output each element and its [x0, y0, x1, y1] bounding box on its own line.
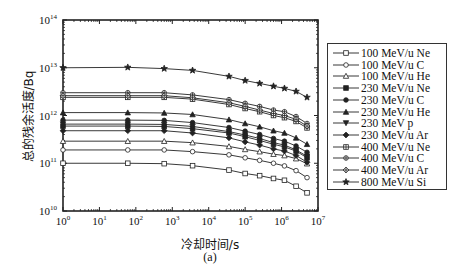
legend-item: 230 MeV/u He: [328, 106, 448, 118]
legend-label: 100 MeV/u Ne: [361, 47, 430, 59]
legend-item: 100 MeV/u Ne: [328, 47, 448, 59]
x-tick-label: 101: [92, 214, 107, 227]
legend-item: 400 MeV/u Ne: [328, 141, 448, 153]
legend-marker-icon: [332, 59, 360, 71]
legend-label: 100 MeV/u C: [361, 59, 424, 71]
legend-marker-icon: [332, 152, 360, 164]
legend-label: 400 MeV/u C: [361, 152, 424, 164]
legend-marker-icon: [332, 82, 360, 94]
legend-item: 100 MeV/u C: [328, 59, 448, 71]
series-100-mev-u-c: [61, 148, 310, 180]
y-axis-label: 总的残余活度/Bq: [19, 52, 36, 182]
legend-label: 800 MeV/u Si: [361, 176, 426, 188]
legend-marker-icon: [332, 164, 360, 176]
legend-label: 230 MeV/u C: [361, 94, 424, 106]
legend-label: 230 MeV/u Ar: [361, 129, 428, 141]
legend-marker-icon: [332, 117, 360, 129]
legend-item: 800 MeV/u Si: [328, 176, 448, 188]
figure-sublabel: (a): [160, 250, 260, 265]
legend-item: 230 MeV/u Ne: [328, 82, 448, 94]
legend: 100 MeV/u Ne100 MeV/u C100 MeV/u He230 M…: [327, 43, 447, 190]
y-tick-label: 1014: [39, 13, 58, 26]
y-tick-label: 1011: [39, 156, 57, 169]
legend-marker-icon: [332, 94, 360, 106]
series-100-mev-u-ne: [61, 161, 310, 195]
legend-label: 400 MeV/u Ar: [361, 164, 428, 176]
legend-marker-icon: [332, 70, 360, 82]
x-tick-label: 106: [274, 214, 289, 227]
y-tick-label: 1012: [39, 109, 58, 122]
legend-label: 230 MeV/u He: [361, 106, 430, 118]
y-tick-label: 1013: [39, 61, 58, 74]
legend-marker-icon: [332, 106, 360, 118]
x-tick-label: 103: [165, 214, 180, 227]
legend-marker-icon: [332, 47, 360, 59]
legend-label: 230 MeV p: [361, 117, 413, 129]
legend-marker-icon: [332, 176, 360, 188]
legend-label: 230 MeV/u Ne: [361, 82, 430, 94]
legend-label: 400 MeV/u Ne: [361, 141, 430, 153]
legend-marker-icon: [332, 129, 360, 141]
legend-item: 400 MeV/u Ar: [328, 164, 448, 176]
legend-item: 230 MeV/u Ar: [328, 129, 448, 141]
legend-label: 100 MeV/u He: [361, 70, 430, 82]
x-tick-label: 105: [238, 214, 253, 227]
y-tick-label: 1010: [39, 204, 58, 217]
legend-item: 100 MeV/u He: [328, 70, 448, 82]
x-tick-label: 107: [311, 214, 326, 227]
legend-item: 230 MeV/u C: [328, 94, 448, 106]
legend-marker-icon: [332, 141, 360, 153]
legend-item: 400 MeV/u C: [328, 152, 448, 164]
x-tick-label: 102: [129, 214, 144, 227]
legend-item: 230 MeV p: [328, 117, 448, 129]
x-tick-label: 104: [201, 214, 216, 227]
x-tick-label: 100: [56, 214, 71, 227]
